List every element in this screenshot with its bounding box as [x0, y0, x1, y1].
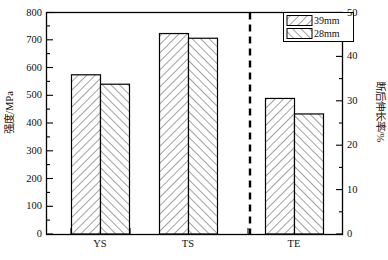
bar-ts-39mm	[160, 34, 189, 234]
legend-label-28mm: 28mm	[314, 28, 340, 39]
left-tick-label-800: 800	[10, 7, 42, 18]
right-tick-label-50: 50	[347, 7, 377, 18]
bar-ys-28mm	[101, 84, 130, 234]
right-tick-label-10: 10	[347, 184, 377, 195]
x-category-label-te: TE	[269, 238, 319, 249]
legend-swatch-39mm	[287, 16, 312, 26]
right-tick-label-20: 20	[347, 139, 377, 150]
legend-swatch-28mm	[287, 29, 312, 39]
chart-figure: 强度/MPa 断后伸长率/% 0 100 200 300 400 500 600…	[0, 0, 388, 260]
bar-ts-28mm	[189, 38, 218, 234]
left-tick-label-700: 700	[10, 34, 42, 45]
left-tick-label-500: 500	[10, 89, 42, 100]
left-tick-label-600: 600	[10, 62, 42, 73]
x-category-label-ys: YS	[75, 238, 125, 249]
right-tick-label-40: 40	[347, 50, 377, 61]
right-tick-label-30: 30	[347, 95, 377, 106]
bar-te-28mm	[295, 114, 324, 234]
left-tick-label-400: 400	[10, 117, 42, 128]
left-tick-label-0: 0	[10, 228, 42, 239]
legend-label-39mm: 39mm	[314, 15, 340, 26]
left-tick-label-100: 100	[10, 200, 42, 211]
bar-ys-39mm	[72, 75, 101, 234]
bar-te-39mm	[266, 98, 295, 234]
left-tick-label-200: 200	[10, 173, 42, 184]
right-tick-label-0: 0	[347, 228, 377, 239]
right-axis-title: 断后伸长率/%	[374, 81, 388, 141]
left-tick-label-300: 300	[10, 145, 42, 156]
x-category-label-ts: TS	[163, 238, 213, 249]
bar-chart-plot	[0, 0, 388, 260]
